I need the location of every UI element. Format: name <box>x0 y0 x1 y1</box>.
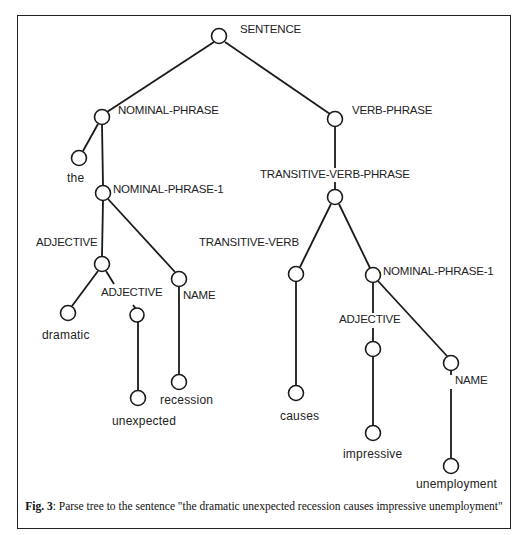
label-impressive: impressive <box>343 447 402 461</box>
label-verb-phrase: VERB-PHRASE <box>352 104 432 116</box>
node-transitive-verb-phrase <box>328 190 343 205</box>
node-verb-phrase <box>328 112 343 127</box>
label-dramatic: dramatic <box>42 328 90 342</box>
label-sentence: SENTENCE <box>240 23 301 35</box>
node-name-left <box>172 272 187 287</box>
label-adjective-right: ADJECTIVE <box>339 313 400 325</box>
label-causes: causes <box>280 409 319 423</box>
node-adjective-left-2 <box>130 308 144 322</box>
label-name-left: NAME <box>183 289 215 301</box>
label-recession: recession <box>160 393 213 407</box>
caption-label: Fig. 3 <box>25 500 52 512</box>
tree-nodes <box>61 29 459 474</box>
node-causes <box>289 386 304 401</box>
label-unexpected: unexpected <box>112 414 176 428</box>
node-the <box>72 151 87 166</box>
label-the: the <box>67 171 84 185</box>
label-transitive-verb: TRANSITIVE-VERB <box>199 236 299 248</box>
label-adjective-left: ADJECTIVE <box>36 236 97 248</box>
label-transitive-verb-phrase: TRANSITIVE-VERB-PHRASE <box>260 168 410 180</box>
node-unemployment <box>444 459 459 474</box>
node-unexpected <box>131 391 146 406</box>
node-sentence <box>212 29 227 44</box>
label-unemployment: unemployment <box>416 477 497 491</box>
node-adjective-left <box>95 257 110 272</box>
node-impressive <box>366 426 381 441</box>
node-nominal-phrase-1-right <box>366 268 381 283</box>
label-nominal-phrase-1-left: NOMINAL-PHRASE-1 <box>113 183 224 195</box>
node-recession <box>172 375 187 390</box>
node-name-right <box>444 356 459 371</box>
label-adjective-left-2: ADJECTIVE <box>101 286 162 298</box>
caption-text: : Parse tree to the sentence "the dramat… <box>53 500 503 512</box>
node-nominal-phrase <box>95 110 110 125</box>
node-transitive-verb <box>289 267 304 282</box>
label-nominal-phrase: NOMINAL-PHRASE <box>118 104 219 116</box>
node-dramatic <box>61 306 76 321</box>
figure-caption: Fig. 3: Parse tree to the sentence "the … <box>0 500 528 512</box>
node-nominal-phrase-1-left <box>96 186 111 201</box>
label-name-right: NAME <box>455 374 487 386</box>
label-nominal-phrase-1-right: NOMINAL-PHRASE-1 <box>383 265 494 277</box>
node-adjective-right <box>366 342 381 357</box>
